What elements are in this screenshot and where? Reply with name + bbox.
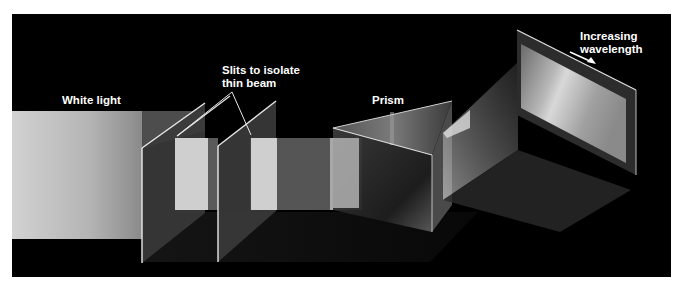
- slit-1-opening: [175, 138, 205, 210]
- white-light-beam: [12, 111, 142, 239]
- thin-beam-to-prism: [277, 138, 330, 210]
- slits-label: Slits to isolate thin beam: [222, 64, 300, 90]
- thin-beam-gap: [208, 138, 218, 210]
- slit-2-opening: [251, 138, 276, 210]
- increasing-wavelength-label: Increasing wavelength: [580, 30, 643, 56]
- prism-label: Prism: [372, 94, 404, 107]
- prism-beam-inside: [333, 138, 359, 208]
- white-light-label: White light: [62, 94, 121, 107]
